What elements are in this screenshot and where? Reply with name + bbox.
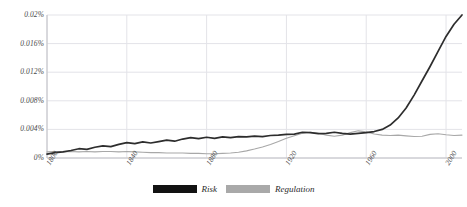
y-axis-tick-label: 0.016% bbox=[20, 39, 44, 48]
legend-swatch-risk bbox=[153, 185, 197, 193]
y-axis-tick-label: 0.012% bbox=[20, 67, 44, 76]
y-axis-tick-label: 0.008% bbox=[20, 96, 44, 105]
y-axis-tick-label: 0.02% bbox=[24, 10, 44, 19]
y-axis-tick-label: 0% bbox=[34, 153, 44, 162]
legend-label-risk: Risk bbox=[202, 184, 218, 194]
legend-swatch-regulation bbox=[226, 185, 270, 193]
line-chart-plot bbox=[0, 0, 467, 207]
y-axis-tick-label: 0.004% bbox=[20, 124, 44, 133]
legend-label-regulation: Regulation bbox=[275, 184, 315, 194]
series-line-risk bbox=[47, 15, 462, 154]
chart-container: 0%0.004%0.008%0.012%0.016%0.02% 18001840… bbox=[0, 0, 467, 207]
legend-item-risk[interactable]: Risk bbox=[153, 184, 218, 194]
legend-item-regulation[interactable]: Regulation bbox=[226, 184, 315, 194]
chart-legend: Risk Regulation bbox=[0, 184, 467, 194]
series-line-regulation bbox=[47, 131, 462, 154]
